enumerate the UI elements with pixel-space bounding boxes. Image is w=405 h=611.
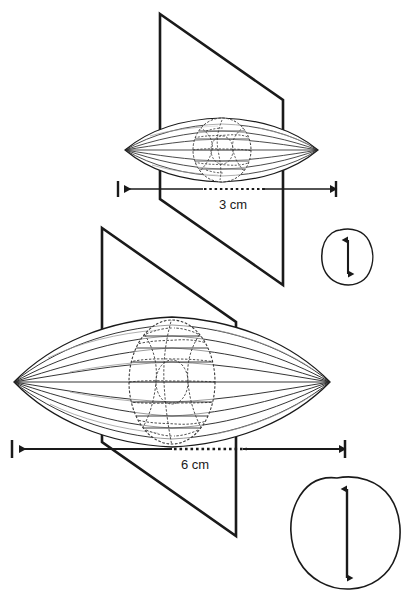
large-cross-section-inset [291,477,400,589]
scale-comparison-diagram: 3 cm [0,0,405,611]
diagram-root: 3 cm [0,0,405,611]
small-cross-section-inset [322,229,373,285]
lower-dimension-label: 6 cm [181,457,209,472]
upper-dimension-label: 3 cm [219,197,247,212]
large-cross-section-outline [291,477,400,589]
